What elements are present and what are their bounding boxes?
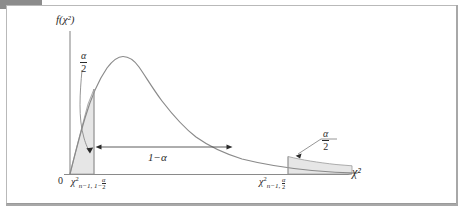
lower-critical-subscript: n−1, 1− (79, 182, 102, 190)
right-alpha-leader-line (298, 139, 321, 154)
origin-label-text: 0 (58, 175, 63, 186)
figure-screenshot: f(χ²) χ² 0 α 2 α 2 1−α χ2n−1, 1− α 2 (0, 0, 463, 216)
y-axis-label-text: f(χ²) (56, 13, 75, 25)
confidence-span-arrowhead-left (96, 144, 102, 149)
origin-label: 0 (58, 176, 63, 186)
confidence-level-label: 1−α (148, 152, 167, 163)
chi-square-plot (0, 0, 463, 216)
upper-critical-subfrac-den: 2 (282, 184, 285, 191)
left-alpha-denominator: 2 (80, 64, 87, 74)
left-tail-alpha-label: α 2 (80, 51, 87, 74)
left-alpha-numerator: α (80, 51, 87, 61)
y-axis-label: f(χ²) (56, 14, 75, 25)
confidence-span-arrowhead-right (227, 144, 233, 149)
right-alpha-fraction: α 2 (322, 129, 329, 152)
right-alpha-arrowhead (296, 153, 302, 158)
upper-critical-subscript-fraction: α 2 (282, 177, 285, 191)
x-axis-label: χ² (352, 166, 361, 178)
upper-critical-superscript: 2 (263, 175, 266, 182)
left-alpha-fraction: α 2 (80, 51, 87, 74)
lower-critical-superscript: 2 (75, 175, 78, 182)
right-alpha-numerator: α (322, 129, 329, 139)
right-alpha-denominator: 2 (322, 142, 329, 152)
lower-critical-subfrac-den: 2 (102, 184, 105, 191)
plot-svg (0, 0, 463, 216)
lower-critical-value-label: χ2n−1, 1− α 2 (71, 176, 106, 191)
lower-critical-subscript-fraction: α 2 (102, 177, 105, 191)
upper-critical-subscript: n−1, (267, 182, 282, 190)
x-axis-label-text: χ² (352, 165, 361, 179)
upper-critical-value-label: χ2n−1, α 2 (259, 176, 285, 191)
right-tail-alpha-label: α 2 (322, 129, 329, 152)
chi-square-density-curve (70, 57, 357, 175)
confidence-level-text: 1−α (148, 151, 167, 163)
